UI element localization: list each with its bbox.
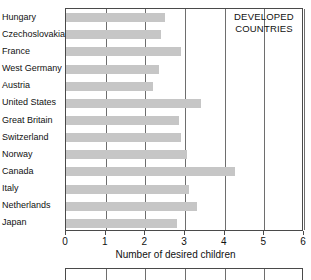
category-label: Canada bbox=[0, 166, 59, 176]
x-tick-label: 4 bbox=[221, 236, 227, 248]
x-tick-mark bbox=[65, 231, 66, 235]
gridline-4 bbox=[225, 9, 226, 230]
x-axis-title: Number of desired children bbox=[0, 249, 311, 261]
next-panel-gridline-3 bbox=[185, 269, 186, 280]
next-panel-frame bbox=[65, 268, 303, 280]
gridline-5 bbox=[264, 9, 265, 230]
x-tick-mark bbox=[105, 231, 106, 235]
bar bbox=[66, 219, 177, 228]
x-tick-label: 2 bbox=[142, 236, 148, 248]
bar bbox=[66, 65, 159, 74]
category-label: Czechoslovakia bbox=[0, 29, 59, 39]
x-tick-mark bbox=[303, 231, 304, 235]
category-label: France bbox=[0, 46, 59, 56]
x-tick-mark bbox=[263, 231, 264, 235]
category-label: United States bbox=[0, 97, 59, 107]
x-tick-label: 1 bbox=[102, 236, 108, 248]
bar bbox=[66, 13, 165, 22]
category-label: Japan bbox=[0, 217, 59, 227]
next-panel-gridline-5 bbox=[264, 269, 265, 280]
developed-countries-annotation: DEVELOPEDCOUNTRIES bbox=[225, 11, 303, 35]
plot-area bbox=[65, 8, 303, 231]
bar bbox=[66, 82, 153, 91]
x-tick-label: 5 bbox=[261, 236, 267, 248]
bar bbox=[66, 167, 235, 176]
gridline-6 bbox=[304, 9, 305, 230]
category-axis-labels: HungaryCzechoslovakiaFranceWest GermanyA… bbox=[0, 8, 62, 231]
category-label: Netherlands bbox=[0, 200, 59, 210]
category-label: Great Britain bbox=[0, 115, 59, 125]
x-tick-label: 0 bbox=[62, 236, 68, 248]
x-tick-mark bbox=[184, 231, 185, 235]
category-label: Norway bbox=[0, 149, 59, 159]
category-label: West Germany bbox=[0, 63, 59, 73]
x-tick-mark bbox=[144, 231, 145, 235]
x-tick-label: 6 bbox=[300, 236, 306, 248]
bar bbox=[66, 185, 189, 194]
category-label: Austria bbox=[0, 80, 59, 90]
next-panel-gridline-1 bbox=[106, 269, 107, 280]
category-label: Switzerland bbox=[0, 132, 59, 142]
annotation-line: DEVELOPED bbox=[225, 11, 303, 23]
x-tick-mark bbox=[224, 231, 225, 235]
bar bbox=[66, 202, 197, 211]
next-panel-gridline-4 bbox=[225, 269, 226, 280]
gridline-3 bbox=[185, 9, 186, 230]
bar bbox=[66, 47, 181, 56]
next-panel-gridline-2 bbox=[145, 269, 146, 280]
bar-chart: HungaryCzechoslovakiaFranceWest GermanyA… bbox=[0, 0, 311, 280]
category-label: Hungary bbox=[0, 12, 59, 22]
bar bbox=[66, 30, 161, 39]
x-tick-label: 3 bbox=[181, 236, 187, 248]
bar bbox=[66, 116, 179, 125]
bar bbox=[66, 150, 187, 159]
bar bbox=[66, 133, 181, 142]
bar bbox=[66, 99, 201, 108]
category-label: Italy bbox=[0, 183, 59, 193]
annotation-line: COUNTRIES bbox=[225, 23, 303, 35]
